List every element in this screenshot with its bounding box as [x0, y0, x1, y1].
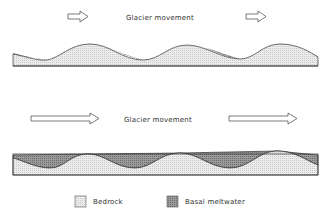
bedrock-top [13, 44, 318, 66]
right-arrow-long-icon [229, 113, 297, 124]
legend-bedrock-label: Bedrock [93, 198, 124, 206]
bedrock-swatch [75, 196, 86, 207]
right-arrow-icon [68, 11, 88, 22]
top-diagram: Glacier movement [13, 11, 318, 66]
glacier-diagram: Glacier movement Glacier movement Bedroc… [0, 0, 330, 221]
right-arrow-long-icon [31, 113, 99, 124]
bottom-diagram: Glacier movement [13, 113, 318, 175]
legend: Bedrock Basal meltwater [75, 196, 245, 207]
glacier-movement-label: Glacier movement [124, 116, 192, 124]
legend-meltwater-label: Basal meltwater [185, 198, 245, 206]
glacier-movement-label: Glacier movement [126, 14, 194, 22]
right-arrow-icon [246, 11, 266, 22]
meltwater-swatch [167, 196, 178, 207]
